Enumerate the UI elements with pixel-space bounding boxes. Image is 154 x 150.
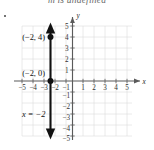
y-tick-label: −3 (62, 114, 70, 122)
y-tick-label: 2 (65, 56, 69, 64)
y-tick-label: −4 (62, 125, 70, 133)
point-label-x-intercept: (−2, 0) (22, 69, 45, 78)
y-axis (70, 17, 75, 140)
x-tick-label: 1 (81, 84, 85, 92)
y-tick-label: −2 (62, 103, 70, 111)
equation-label: x = −2 (21, 110, 45, 119)
y-axis-name: y (75, 12, 80, 20)
x-tick-label: 2 (92, 84, 96, 92)
x-tick-label: −5 (18, 84, 26, 92)
plotted-point-intercept (48, 78, 54, 84)
page-top-text: m is undefined (0, 0, 154, 7)
x-tick-label: −3 (40, 84, 48, 92)
x-tick-label: 3 (103, 84, 107, 92)
point-label-upper: (−2, 4) (22, 33, 45, 42)
y-tick-label: 1 (65, 67, 69, 75)
y-tick-label: −5 (62, 135, 70, 143)
x-tick-label: 5 (125, 84, 129, 92)
x-tick-label: 4 (114, 84, 118, 92)
x-axis-name: x (141, 78, 146, 86)
x-axis-tick-labels: −5 −4 −3 −2 −1 1 2 3 4 5 (18, 84, 129, 92)
y-tick-label: 5 (65, 23, 69, 31)
y-tick-label: 3 (65, 45, 69, 53)
coordinate-plane-figure: −5 −4 −3 −2 −1 1 2 3 4 5 5 4 3 2 1 −1 −2… (0, 8, 154, 150)
x-tick-label: −4 (29, 84, 37, 92)
y-tick-label: 4 (65, 34, 69, 42)
plotted-point-upper (48, 34, 54, 40)
x-tick-label: −2 (51, 84, 59, 92)
y-tick-label: −1 (62, 92, 70, 100)
